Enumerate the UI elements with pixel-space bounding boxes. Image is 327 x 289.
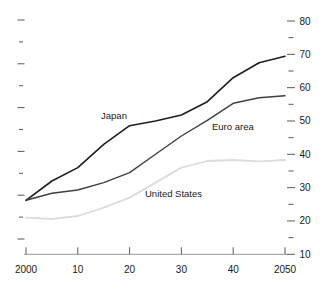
right-y-tick-label: 10	[300, 249, 312, 260]
x-tick-label: 2050	[274, 264, 297, 275]
x-tick-label: 40	[228, 264, 240, 275]
x-tick-label: 10	[72, 264, 84, 275]
right-y-tick-label: 50	[300, 115, 312, 126]
right-y-tick-label: 30	[300, 182, 312, 193]
chart-canvas: 20001020304020501020304050607080JapanEur…	[0, 0, 327, 289]
right-y-tick-label: 80	[300, 16, 312, 27]
right-y-tick-label: 20	[300, 215, 312, 226]
series-line-euro-area	[26, 96, 285, 201]
right-y-tick-label: 60	[300, 82, 312, 93]
right-y-tick-label: 70	[300, 49, 312, 60]
x-tick-label: 20	[124, 264, 136, 275]
series-label-euro-area: Euro area	[212, 121, 254, 132]
x-tick-label: 2000	[15, 264, 38, 275]
series-label-united-states: United States	[145, 188, 202, 199]
population-ageing-line-chart: 20001020304020501020304050607080JapanEur…	[0, 0, 327, 289]
series-label-japan: Japan	[101, 110, 127, 121]
x-tick-label: 30	[176, 264, 188, 275]
right-y-tick-label: 40	[300, 149, 312, 160]
